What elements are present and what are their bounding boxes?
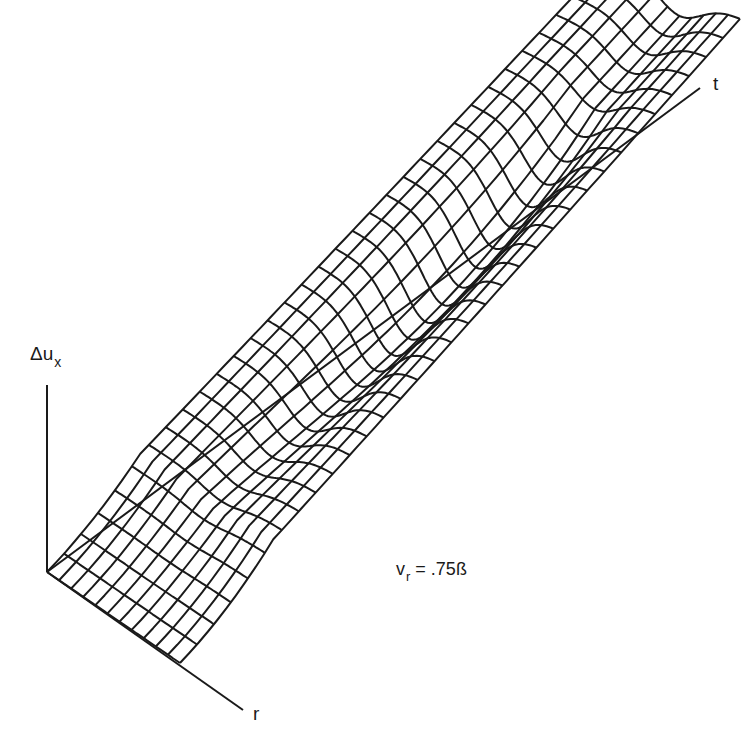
mesh-line-constant-r xyxy=(47,0,607,572)
mesh-line-constant-t xyxy=(319,267,452,356)
mesh-line-constant-t xyxy=(302,285,435,372)
mesh-line-constant-r xyxy=(83,0,643,597)
mesh-line-constant-t xyxy=(522,51,655,114)
mesh-line-constant-r xyxy=(132,18,692,630)
mesh-line-constant-r xyxy=(95,0,655,605)
mesh-line-constant-t xyxy=(573,0,706,57)
vertical-axis-label: Δux xyxy=(30,344,61,363)
annotation-value: = .75ß xyxy=(410,559,467,579)
mesh-line-constant-t xyxy=(336,249,469,340)
wireframe-surface-plot xyxy=(0,0,747,743)
mesh-line-constant-t xyxy=(505,69,638,137)
mesh-line-constant-t xyxy=(285,302,418,386)
annotation-main: v xyxy=(396,559,405,579)
r-axis-label: r xyxy=(253,704,259,723)
mesh-line-constant-t xyxy=(607,0,740,19)
vertical-axis-label-main: Δu xyxy=(30,343,53,364)
mesh-line-constant-t xyxy=(488,87,621,162)
velocity-annotation: vr = .75ß xyxy=(396,560,467,578)
mesh-line-constant-t xyxy=(268,320,401,402)
annotation-subscript: r xyxy=(406,569,410,584)
figure: Δux t r vr = .75ß xyxy=(0,0,747,743)
mesh-line-constant-t xyxy=(539,33,672,95)
t-axis-label: t xyxy=(713,74,718,93)
vertical-axis-label-subscript: x xyxy=(54,354,61,370)
mesh-line-constant-r xyxy=(71,0,631,589)
mesh-line-constant-r xyxy=(108,7,668,614)
